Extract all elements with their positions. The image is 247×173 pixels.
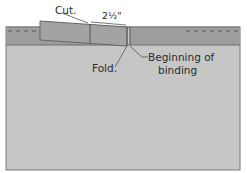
label-measure: 2½" [102, 10, 122, 21]
binding-band-right [130, 27, 240, 45]
label-beginning-line2: binding [158, 64, 197, 76]
quilt-body [6, 27, 240, 170]
binding-diagram: Cut. 2½" Fold. Beginning of binding [0, 0, 247, 173]
label-cut: Cut. [55, 4, 76, 16]
label-fold: Fold. [92, 62, 117, 74]
label-beginning-line1: Beginning of [148, 51, 215, 63]
